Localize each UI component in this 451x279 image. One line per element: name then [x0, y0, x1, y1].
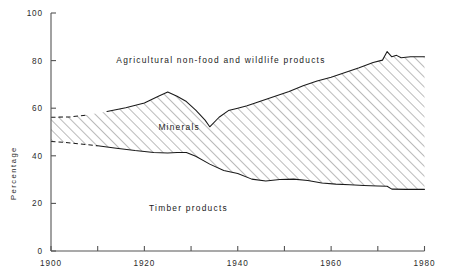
- plot-area: [0, 0, 425, 279]
- agricultural-band-label: Agricultural non-food and wildlife produ…: [116, 55, 325, 65]
- chart-figure: 19001920194019601980020406080100 Agricul…: [0, 0, 451, 279]
- x-tick-label-1900: 1900: [40, 259, 62, 268]
- x-tick-label-1940: 1940: [227, 259, 249, 268]
- y-tick-label-60: 60: [32, 104, 43, 113]
- y-tick-label-0: 0: [38, 247, 43, 256]
- minerals-band-fill: [51, 52, 425, 190]
- y-tick-label-100: 100: [27, 9, 43, 18]
- percentage-area-chart: 19001920194019601980020406080100 Agricul…: [0, 0, 451, 279]
- minerals-band-label: Minerals: [158, 122, 200, 132]
- x-tick-label-1980: 1980: [414, 259, 436, 268]
- x-tick-label-1960: 1960: [320, 259, 342, 268]
- x-tick-label-1920: 1920: [133, 259, 155, 268]
- y-tick-label-40: 40: [32, 152, 43, 161]
- timber-band-label: Timber products: [149, 203, 228, 213]
- y-tick-label-20: 20: [32, 199, 43, 208]
- y-tick-label-80: 80: [32, 57, 43, 66]
- y-axis-title: Percentage: [9, 146, 18, 200]
- left-margin-mask: [0, 0, 50, 279]
